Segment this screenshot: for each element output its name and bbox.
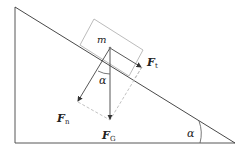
center-of-mass-dot [109, 47, 112, 50]
base-angle-arc [199, 121, 201, 143]
base-angle-label: α [187, 127, 195, 140]
normal-force-subscript: n [65, 118, 70, 126]
block [80, 19, 143, 76]
gravity-force-subscript: G [110, 135, 116, 143]
inclined-plane-diagram: m F t F n F G α α [0, 0, 247, 150]
tangential-force-arrow [110, 48, 141, 67]
incline-triangle [15, 7, 235, 143]
tangential-force-subscript: t [155, 62, 158, 70]
block-angle-label: α [99, 74, 107, 87]
mass-label: m [97, 34, 106, 45]
